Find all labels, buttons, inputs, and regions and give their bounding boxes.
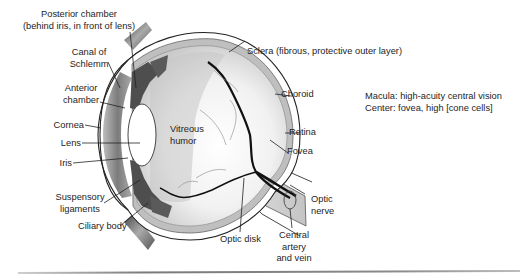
label-line: chamber (58, 95, 104, 107)
label-line: (behind iris, in front of lens) (14, 21, 144, 33)
label-posterior-chamber: Posterior chamber (behind iris, in front… (14, 9, 144, 32)
label-line: artery (272, 242, 316, 254)
annotation-line-1: Macula: high-acuity central vision (365, 90, 502, 102)
label-ciliary-body: Ciliary body (78, 221, 127, 233)
label-retina: Retina (289, 127, 316, 139)
label-line: Anterior (58, 83, 104, 95)
label-line: Optic (311, 194, 334, 206)
label-line: nerve (311, 206, 334, 218)
label-line: humor (170, 136, 204, 148)
label-cornea: Cornea (30, 120, 84, 132)
label-anterior-chamber: Anterior chamber (58, 83, 104, 106)
label-line: and vein (272, 253, 316, 265)
label-choroid: Choroid (281, 89, 314, 101)
annotation-line-2: Center: fovea, high [cone cells] (365, 102, 502, 114)
label-optic-disk: Optic disk (220, 234, 261, 246)
label-iris: Iris (30, 158, 72, 170)
label-line: Schlemm (66, 59, 112, 71)
label-suspensory-ligaments: Suspensory ligaments (52, 192, 108, 215)
label-lens: Lens (30, 138, 81, 150)
label-line: ligaments (52, 204, 108, 216)
lens-shape (128, 104, 156, 166)
label-line: Vitreous (170, 124, 204, 136)
label-line: Canal of (66, 47, 112, 59)
label-sclera: Sclera (fibrous, protective outer layer) (247, 46, 402, 58)
label-canal-of-schlemm: Canal of Schlemm (66, 47, 112, 70)
macula-annotation: Macula: high-acuity central vision Cente… (365, 90, 502, 114)
label-line: Posterior chamber (14, 9, 144, 21)
label-fovea: Fovea (287, 146, 313, 158)
label-central-artery-vein: Central artery and vein (272, 230, 316, 265)
eye-diagram: Posterior chamber (behind iris, in front… (0, 0, 525, 278)
label-optic-nerve: Optic nerve (311, 194, 334, 217)
label-vitreous-humor: Vitreous humor (170, 124, 204, 147)
label-line: Suspensory (52, 192, 108, 204)
label-line: Central (272, 230, 316, 242)
